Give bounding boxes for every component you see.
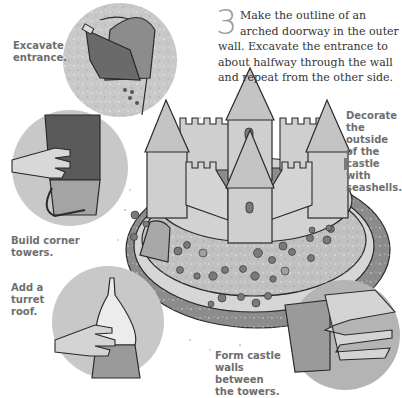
caption-excavate: Excavate entrance. [13, 40, 73, 64]
caption-turret-roof: Add a turret roof. [11, 282, 53, 318]
step-3-instructions: 3 Make the outline of an arched doorway … [218, 8, 400, 86]
step-text: Make the outline of an arched doorway in… [218, 9, 399, 84]
caption-form-walls: Form castle walls between the towers. [215, 350, 283, 398]
caption-corner-towers: Build corner towers. [11, 235, 83, 259]
caption-decorate: Decorate the outside of the castle with … [346, 110, 402, 194]
step-number: 3 [216, 9, 237, 37]
illustration-turret [52, 266, 164, 378]
illustration-excavate [63, 3, 177, 117]
illustration-bucket [12, 110, 128, 226]
tower-right [306, 100, 350, 218]
